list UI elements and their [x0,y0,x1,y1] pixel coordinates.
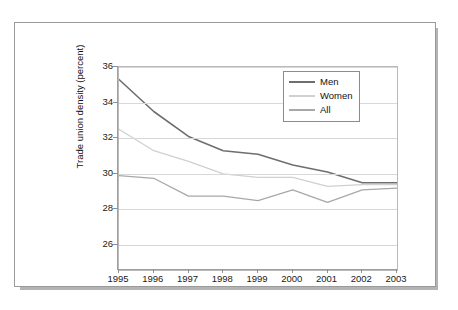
gridline [119,67,397,68]
series-line-all [119,176,397,203]
legend-label-all: All [320,103,331,117]
x-tick-label: 2003 [376,273,416,284]
gridline [119,245,397,246]
y-tick-label: 36 [87,60,113,71]
gridline [119,209,397,210]
y-tick-mark [113,137,118,138]
y-tick-mark [113,208,118,209]
legend-item-men[interactable]: Men [289,75,355,89]
legend-item-women[interactable]: Women [289,89,355,103]
figure-card: Trade union density (percent) 2628303234… [14,22,436,287]
x-tick-mark [222,269,223,273]
y-tick-label: 32 [87,131,113,142]
x-tick-mark [257,269,258,273]
y-axis-tick-labels: 262830323436 [87,66,113,269]
x-axis-tick-labels: 199519961997199819992000200120022003 [118,273,396,289]
y-tick-label: 26 [87,238,113,249]
y-tick-mark [113,244,118,245]
x-tick-mark [361,269,362,273]
chart-legend[interactable]: Men Women All [283,71,360,122]
y-axis-title: Trade union density (percent) [74,27,85,187]
x-tick-mark [327,269,328,273]
y-tick-mark [113,66,118,67]
x-tick-mark [396,269,397,273]
legend-label-women: Women [320,89,353,103]
x-tick-mark [153,269,154,273]
y-tick-label: 30 [87,167,113,178]
x-tick-mark [292,269,293,273]
gridline [119,138,397,139]
y-tick-mark [113,102,118,103]
legend-swatch-all [289,109,315,111]
y-tick-label: 28 [87,202,113,213]
y-tick-label: 34 [87,96,113,107]
legend-label-men: Men [320,75,338,89]
x-tick-mark [118,269,119,273]
screenshot-root: Trade union density (percent) 2628303234… [0,0,458,310]
y-tick-mark [113,173,118,174]
legend-swatch-women [289,95,315,97]
x-tick-mark [188,269,189,273]
legend-swatch-men [289,81,315,83]
gridline [119,174,397,175]
legend-item-all[interactable]: All [289,103,355,117]
